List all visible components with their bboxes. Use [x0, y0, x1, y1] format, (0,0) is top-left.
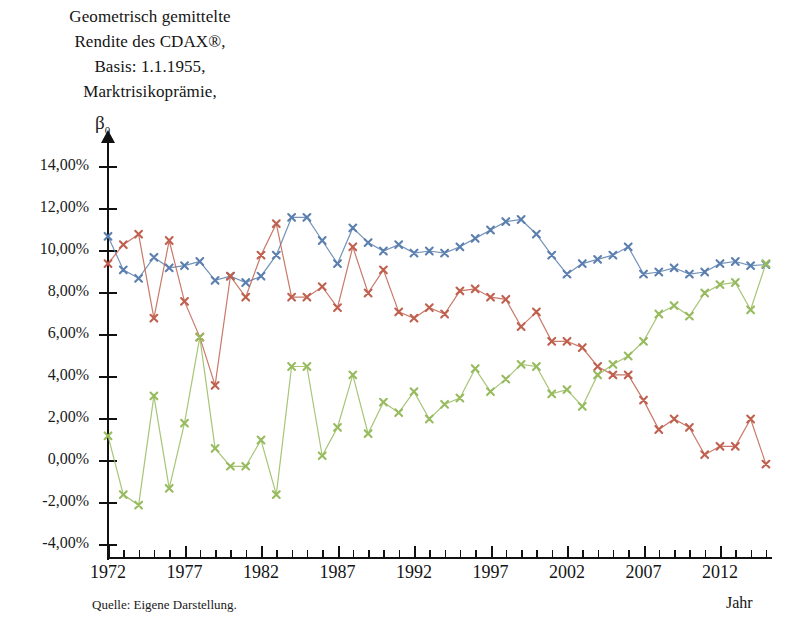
- series-marker-x-icon: [502, 218, 509, 225]
- series-marker-x-icon: [227, 273, 234, 280]
- x-axis-major-tick: [644, 546, 646, 559]
- series-marker-x-icon: [304, 294, 311, 301]
- series-marker-x-icon: [166, 237, 173, 244]
- series-marker-x-icon: [533, 309, 540, 316]
- series-marker-x-icon: [441, 250, 448, 257]
- y-axis-tick-label: 10,00%: [0, 240, 89, 258]
- series-marker-x-icon: [502, 376, 509, 383]
- series-marker-x-icon: [610, 361, 617, 368]
- series-marker-x-icon: [564, 338, 571, 345]
- series-marker-x-icon: [181, 420, 188, 427]
- series-marker-x-icon: [548, 390, 555, 397]
- x-axis-tick-label: 2012: [685, 562, 755, 583]
- series-marker-x-icon: [457, 395, 464, 402]
- x-axis-minor-tick: [154, 550, 156, 559]
- y-axis-tick-label: 8,00%: [0, 282, 89, 300]
- x-axis-minor-tick: [689, 550, 691, 559]
- series-marker-x-icon: [151, 254, 158, 261]
- y-axis-tick: [99, 376, 117, 378]
- y-axis-tick: [99, 334, 117, 336]
- series-marker-x-icon: [747, 262, 754, 269]
- series-marker-x-icon: [701, 269, 708, 276]
- series-marker-x-icon: [288, 214, 295, 221]
- x-axis-minor-tick: [751, 550, 753, 559]
- series-marker-x-icon: [273, 491, 280, 498]
- x-axis-tick-label: 1992: [379, 562, 449, 583]
- x-axis-minor-tick: [536, 550, 538, 559]
- series-marker-x-icon: [763, 461, 770, 468]
- x-axis-major-tick: [108, 546, 110, 559]
- x-axis-minor-tick: [598, 550, 600, 559]
- x-axis-minor-tick: [735, 550, 737, 559]
- series-marker-x-icon: [166, 264, 173, 271]
- series-marker-x-icon: [579, 260, 586, 267]
- series-marker-x-icon: [380, 399, 387, 406]
- y-axis-tick-label: -2,00%: [0, 492, 89, 510]
- series-line: [108, 217, 766, 282]
- x-axis-minor-tick: [123, 550, 125, 559]
- series-marker-x-icon: [533, 363, 540, 370]
- series-marker-x-icon: [472, 235, 479, 242]
- y-axis-tick-label: 4,00%: [0, 366, 89, 384]
- series-marker-x-icon: [594, 256, 601, 263]
- series-marker-x-icon: [655, 426, 662, 433]
- series-marker-x-icon: [701, 451, 708, 458]
- series-marker-x-icon: [671, 416, 678, 423]
- series-marker-x-icon: [411, 388, 418, 395]
- y-axis-tick: [99, 208, 117, 210]
- series-marker-x-icon: [426, 304, 433, 311]
- x-axis-minor-tick: [613, 550, 615, 559]
- x-axis-minor-tick: [506, 550, 508, 559]
- y-axis-tick: [99, 292, 117, 294]
- series-marker-x-icon: [564, 386, 571, 393]
- x-axis-minor-tick: [215, 550, 217, 559]
- series-marker-x-icon: [349, 243, 356, 250]
- series-marker-x-icon: [579, 403, 586, 410]
- source-note: Quelle: Eigene Darstellung.: [92, 597, 237, 613]
- y-axis-tick: [99, 502, 117, 504]
- series-marker-x-icon: [441, 311, 448, 318]
- series-marker-x-icon: [686, 271, 693, 278]
- x-axis-major-tick: [567, 546, 569, 559]
- data-series-1: [105, 220, 770, 467]
- x-axis-minor-tick: [169, 550, 171, 559]
- series-line: [108, 264, 766, 506]
- x-axis-minor-tick: [659, 550, 661, 559]
- series-marker-x-icon: [487, 227, 494, 234]
- y-axis-tick-label: -4,00%: [0, 534, 89, 552]
- x-axis-title: Jahr: [726, 594, 753, 612]
- series-marker-x-icon: [732, 279, 739, 286]
- series-marker-x-icon: [625, 372, 632, 379]
- series-marker-x-icon: [304, 363, 311, 370]
- series-marker-x-icon: [258, 437, 265, 444]
- x-axis-minor-tick: [582, 550, 584, 559]
- x-axis-minor-tick: [230, 550, 232, 559]
- series-marker-x-icon: [319, 237, 326, 244]
- x-axis-minor-tick: [445, 550, 447, 559]
- series-marker-x-icon: [640, 397, 647, 404]
- series-marker-x-icon: [212, 277, 219, 284]
- y-axis-tick-label: 14,00%: [0, 156, 89, 174]
- series-marker-x-icon: [548, 252, 555, 259]
- x-axis-tick-label: 1997: [456, 562, 526, 583]
- y-axis-tick: [99, 166, 117, 168]
- series-marker-x-icon: [457, 243, 464, 250]
- series-marker-x-icon: [564, 271, 571, 278]
- y-axis-tick: [99, 250, 117, 252]
- series-marker-x-icon: [426, 416, 433, 423]
- series-marker-x-icon: [120, 267, 127, 274]
- x-axis-minor-tick: [399, 550, 401, 559]
- series-marker-x-icon: [196, 258, 203, 265]
- x-axis-major-tick: [720, 546, 722, 559]
- series-layer: [0, 0, 795, 634]
- y-axis-line: [107, 140, 109, 560]
- series-marker-x-icon: [334, 260, 341, 267]
- series-marker-x-icon: [151, 393, 158, 400]
- series-marker-x-icon: [365, 430, 372, 437]
- x-axis-major-tick: [185, 546, 187, 559]
- x-axis-minor-tick: [429, 550, 431, 559]
- x-axis-minor-tick: [521, 550, 523, 559]
- series-marker-x-icon: [196, 334, 203, 341]
- series-marker-x-icon: [365, 290, 372, 297]
- series-marker-x-icon: [212, 445, 219, 452]
